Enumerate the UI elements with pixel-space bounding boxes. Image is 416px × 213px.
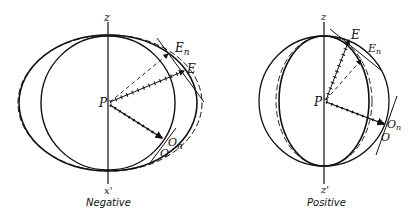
point-On-label: On: [168, 136, 183, 151]
axis-bottom-label: x': [104, 185, 112, 196]
indicatrix-diagram: z P En E On O x' Negative z P E En O: [0, 0, 416, 213]
caption-negative: Negative: [86, 197, 131, 208]
point-O-label: O: [381, 131, 390, 144]
point-O-label: O: [160, 147, 169, 160]
negative-figure: z P En E On O x' Negative: [18, 11, 204, 208]
axis-bottom-label: z': [320, 184, 329, 195]
ray-P-O: [110, 105, 162, 138]
point-E-label: E: [186, 62, 196, 76]
point-En-label: En: [174, 41, 190, 57]
point-En-label: En: [367, 42, 381, 56]
point-On-label: On: [387, 118, 401, 132]
ray-P-En: [110, 54, 168, 102]
positive-figure: z P E En On O z' Positive: [259, 11, 401, 208]
axis-top-label: z: [320, 11, 327, 22]
caption-positive: Positive: [307, 197, 346, 208]
ray-P-O: [326, 102, 384, 124]
point-E-label: E: [350, 28, 360, 42]
ray-P-En: [326, 60, 361, 100]
center-P-label: P: [98, 96, 108, 110]
axis-top-label: z: [103, 11, 110, 24]
center-P-label: P: [313, 95, 323, 109]
